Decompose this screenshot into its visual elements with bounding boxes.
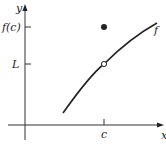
open-point-L — [101, 61, 106, 66]
curve-f — [63, 23, 157, 113]
y-axis-arrow-icon — [23, 4, 28, 11]
filled-point-fc — [101, 24, 107, 30]
label-L: L — [11, 58, 19, 71]
limit-diagram: y x f(c) L c f — [0, 0, 166, 144]
label-fc: f(c) — [1, 21, 21, 34]
x-axis-arrow-icon — [157, 123, 164, 128]
label-f: f — [153, 24, 160, 37]
y-axis-label: y — [15, 2, 23, 15]
x-axis-label: x — [161, 129, 166, 142]
label-c: c — [101, 128, 107, 141]
